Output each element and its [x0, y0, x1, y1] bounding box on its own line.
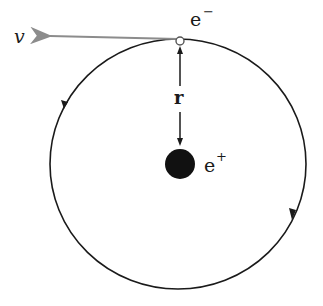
electron-charge-sup: − [203, 4, 214, 19]
radius-arrowhead-up [177, 46, 183, 54]
positron-nucleus [165, 149, 195, 179]
radius-arrowhead-down [177, 138, 183, 146]
positron-charge-sup: + [216, 149, 227, 164]
radius-label: r [174, 87, 184, 108]
positron-label: e [204, 154, 215, 176]
velocity-arrow [50, 36, 178, 39]
orbit-diagram: v e − r e + [0, 0, 323, 306]
electron-label: e [190, 8, 201, 30]
velocity-label: v [14, 25, 25, 47]
electron-marker [176, 37, 184, 45]
